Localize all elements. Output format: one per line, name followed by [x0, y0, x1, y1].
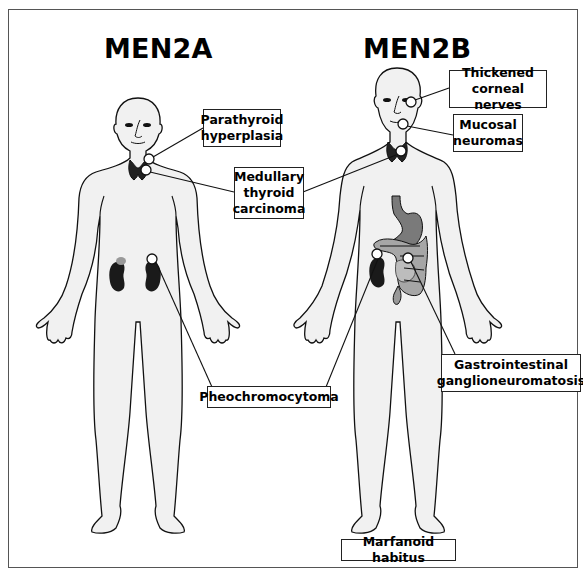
men2a-adrenal-marker: [147, 254, 157, 264]
title-men2a: MEN2A: [104, 33, 213, 64]
men2a-figure: [36, 98, 239, 533]
men2a-body-outline: [36, 98, 239, 533]
men2b-gi-marker: [403, 253, 413, 263]
label-thickened-corneal-nerves: Thickened corneal nerves: [449, 70, 547, 108]
label-mucosal-neuromas: Mucosal neuromas: [453, 114, 523, 152]
label-gastrointestinal-ganglioneuromatosis: Gastrointestinal ganglioneuromatosis: [441, 354, 581, 392]
label-pheochromocytoma: Pheochromocytoma: [207, 386, 331, 408]
men2b-adrenal-marker: [372, 249, 382, 259]
men2a-adrenal-left: [116, 257, 126, 265]
men2b-mucosal-marker: [398, 119, 408, 129]
men2b-thyroid-marker: [396, 146, 406, 156]
label-parathyroid-hyperplasia: Parathyroid hyperplasia: [203, 109, 281, 147]
men2a-thyroid-marker: [141, 165, 151, 175]
men2b-corneal-marker: [406, 97, 416, 107]
men2a-parathyroid-marker: [144, 154, 154, 164]
label-medullary-thyroid-carcinoma: Medullary thyroid carcinoma: [234, 167, 304, 219]
title-men2b: MEN2B: [363, 33, 471, 64]
label-marfanoid-habitus: Marfanoid habitus: [341, 539, 456, 561]
